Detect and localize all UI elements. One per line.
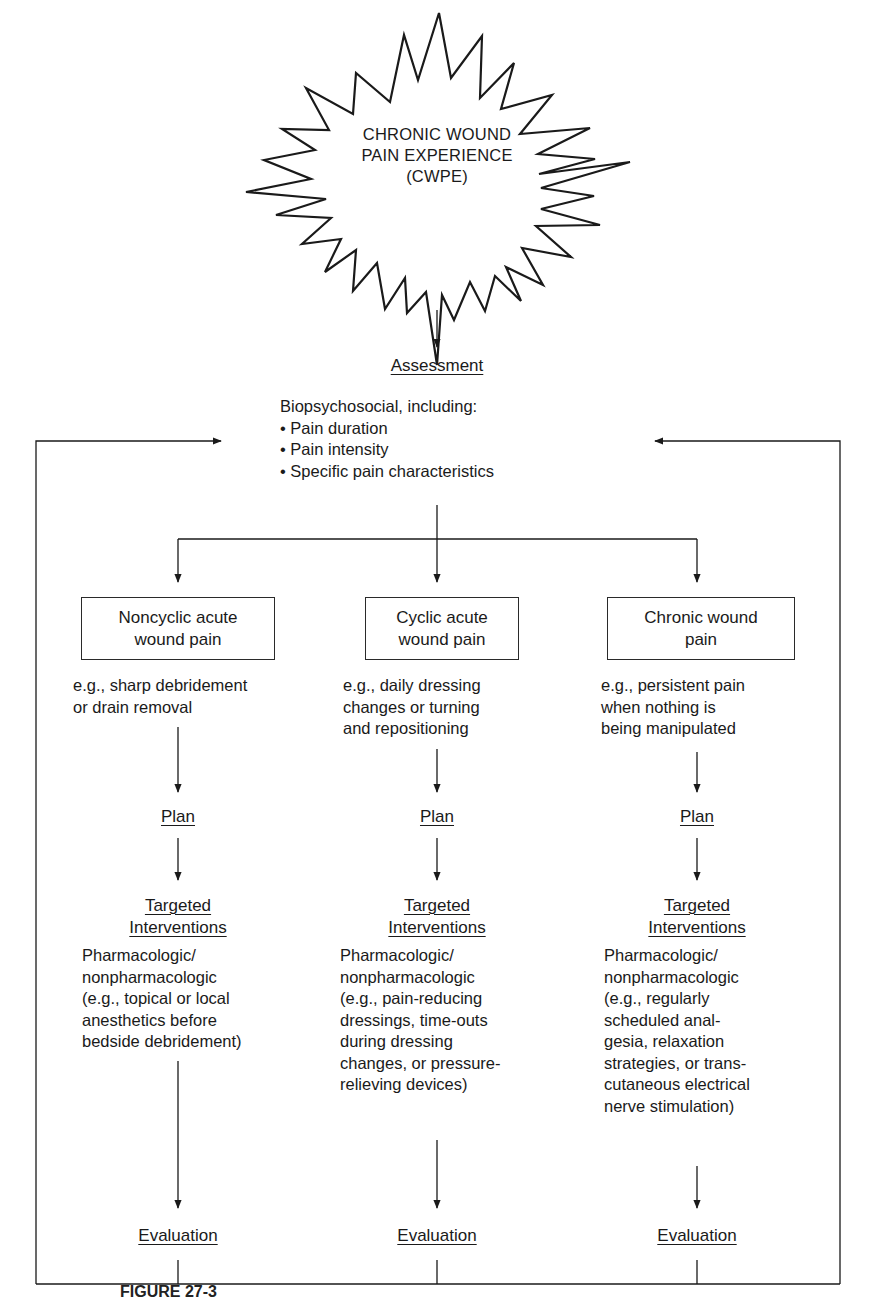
- assessment-intro: Biopsychosocial, including:: [280, 396, 494, 418]
- assessment-bullet: • Specific pain characteristics: [280, 461, 494, 483]
- branch-example-cyclic: e.g., daily dressing changes or turning …: [343, 675, 481, 740]
- interventions-text-cyclic: Pharmacologic/ nonpharmacologic (e.g., p…: [340, 945, 501, 1096]
- assessment-bullet: • Pain duration: [280, 418, 494, 440]
- central-node-line-1: CHRONIC WOUND: [330, 124, 544, 145]
- plan-heading-chronic: Plan: [647, 806, 747, 828]
- evaluation-heading-noncyclic: Evaluation: [108, 1225, 248, 1247]
- interventions-heading-chronic: Targeted Interventions: [617, 895, 777, 939]
- figure-caption: FIGURE 27-3: [120, 1283, 820, 1298]
- interventions-text-noncyclic: Pharmacologic/ nonpharmacologic (e.g., t…: [82, 945, 242, 1053]
- central-node-line-3: (CWPE): [330, 166, 544, 187]
- plan-heading-cyclic: Plan: [387, 806, 487, 828]
- starburst-shape: [246, 13, 630, 365]
- branch-example-noncyclic: e.g., sharp debridement or drain removal: [73, 675, 247, 718]
- interventions-heading-cyclic: Targeted Interventions: [357, 895, 517, 939]
- branch-example-chronic: e.g., persistent pain when nothing is be…: [601, 675, 745, 740]
- branch-box-noncyclic-acute: Noncyclic acutewound pain: [81, 597, 275, 660]
- evaluation-heading-chronic: Evaluation: [627, 1225, 767, 1247]
- assessment-details: Biopsychosocial, including: • Pain durat…: [280, 396, 494, 482]
- assessment-bullet: • Pain intensity: [280, 439, 494, 461]
- central-node-line-2: PAIN EXPERIENCE: [330, 145, 544, 166]
- interventions-heading-noncyclic: Targeted Interventions: [98, 895, 258, 939]
- plan-heading-noncyclic: Plan: [128, 806, 228, 828]
- branch-box-cyclic-acute: Cyclic acutewound pain: [365, 597, 519, 660]
- evaluation-heading-cyclic: Evaluation: [367, 1225, 507, 1247]
- interventions-text-chronic: Pharmacologic/ nonpharmacologic (e.g., r…: [604, 945, 750, 1117]
- branch-box-chronic: Chronic woundpain: [607, 597, 795, 660]
- central-node-label: CHRONIC WOUND PAIN EXPERIENCE (CWPE): [330, 124, 544, 187]
- assessment-heading: Assessment: [337, 355, 537, 377]
